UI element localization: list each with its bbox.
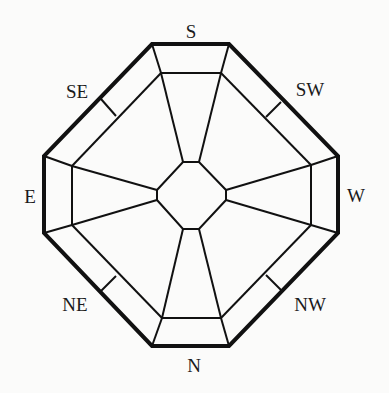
label-northeast: NE bbox=[62, 294, 87, 315]
tick-sw bbox=[266, 102, 281, 117]
label-south: S bbox=[186, 21, 197, 42]
label-east: E bbox=[24, 186, 36, 207]
label-west: W bbox=[347, 185, 365, 206]
label-northwest: NW bbox=[294, 294, 326, 315]
tick-ne bbox=[101, 276, 116, 291]
bagua-compass-diagram: S SW W NW N NE E SE bbox=[0, 0, 389, 393]
center-octagon bbox=[157, 162, 226, 229]
tick-nw bbox=[266, 275, 281, 290]
label-north: N bbox=[187, 355, 201, 376]
spokes bbox=[72, 73, 311, 318]
label-southwest: SW bbox=[296, 79, 325, 100]
tick-se bbox=[101, 99, 116, 116]
corner-ticks bbox=[101, 99, 281, 291]
label-southeast: SE bbox=[66, 81, 88, 102]
